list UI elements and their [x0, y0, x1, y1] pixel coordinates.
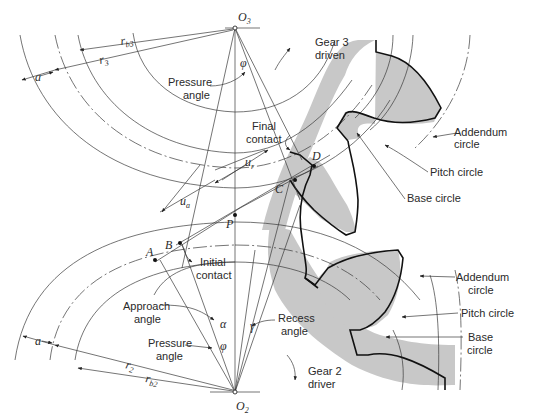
gear2-role: driver [308, 378, 336, 390]
final-contact-2: contact [246, 133, 281, 145]
gear2-addendum-callout-1: Addendum [456, 271, 509, 283]
ua-label: ua [180, 194, 190, 210]
gear3-addendum-a: a [35, 70, 41, 84]
point-a: A [145, 245, 154, 259]
gear3-pressure-angle-1: Pressure [168, 76, 212, 88]
r2-label: r2 [124, 357, 137, 375]
gear2-rotation-arrow [287, 355, 295, 380]
point-p: P [225, 217, 234, 231]
contact-dimensions [162, 150, 268, 212]
gear2-base-callout-1: Base [468, 331, 493, 343]
gear3-dimensions [22, 29, 233, 80]
gear3-base-callout: Base circle [407, 192, 461, 204]
point-d: D [311, 149, 321, 163]
gear2-pitch-callout: Pitch circle [461, 307, 514, 319]
gamma-label: γ [250, 319, 255, 333]
gear2-pressure-angle-1: Pressure [148, 337, 192, 349]
initial-contact-2: contact [196, 269, 231, 281]
phi2-label: φ [220, 339, 227, 353]
gear3-pressure-angle-2: angle [183, 89, 210, 101]
point-c: C [275, 182, 284, 196]
gear3-pitch-callout: Pitch circle [430, 166, 483, 178]
alpha-label: α [220, 317, 227, 331]
gear3-title: Gear 3 [315, 36, 349, 48]
approach-angle-1: Approach [123, 300, 170, 312]
ur-label: ur [245, 155, 255, 171]
initial-contact-1: Initial [200, 256, 226, 268]
recess-angle-2: angle [281, 325, 308, 337]
o3-label: O3 [238, 10, 251, 26]
phi3-label: φ [240, 56, 247, 70]
gear3-addendum-callout-1: Addendum [454, 126, 507, 138]
gear2-addendum-a: a [35, 334, 41, 348]
gear3-rotation-arrow [275, 48, 290, 70]
gear2-pressure-angle-2: angle [156, 350, 183, 362]
o2-label: O2 [236, 399, 249, 415]
rb2-label: rb2 [144, 371, 159, 389]
gear2-addendum-callout-2: circle [468, 284, 494, 296]
final-contact-1: Final [252, 120, 276, 132]
point-b: B [165, 238, 173, 252]
recess-angle-1: Recess [278, 312, 315, 324]
gear-mesh-diagram: O3 O2 rb3 r3 a r2 rb2 a φ Pressure angle… [0, 0, 533, 419]
gear3-addendum-callout-2: circle [454, 138, 480, 150]
r3-label: r3 [98, 51, 110, 68]
gear3-role: driven [315, 49, 345, 61]
rb3-label: rb3 [119, 32, 134, 50]
approach-angle-2: angle [134, 313, 161, 325]
gear2-base-callout-2: circle [467, 344, 493, 356]
gear2-title: Gear 2 [308, 365, 342, 377]
